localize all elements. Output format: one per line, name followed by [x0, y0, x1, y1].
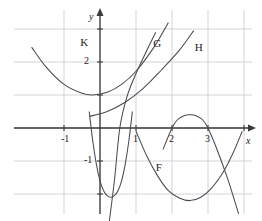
- curve-G: [109, 32, 156, 221]
- x-tick-label-2: 2: [169, 134, 174, 144]
- x-axis-arrow: [248, 125, 256, 132]
- curves: [32, 22, 243, 221]
- coordinate-plane: [0, 0, 262, 221]
- curve-K: [89, 112, 132, 198]
- curve-label-k: K: [80, 37, 88, 48]
- x-axis-label: x: [246, 136, 250, 146]
- curve-label-g: G: [153, 38, 161, 49]
- graph-figure: -11232-1xyKGHF: [0, 0, 262, 221]
- y-tick-label-1: -1: [84, 155, 92, 165]
- curve-H: [89, 31, 193, 117]
- grid-lines: [14, 10, 252, 214]
- curve-label-f: F: [156, 162, 162, 173]
- x-tick-label-1: 1: [133, 134, 138, 144]
- y-tick-label-0: 2: [84, 56, 89, 66]
- curve-label-h: H: [195, 42, 203, 53]
- y-axis-label: y: [89, 12, 93, 22]
- axes: [14, 8, 256, 214]
- x-tick-label-0: -1: [61, 134, 69, 144]
- x-tick-label-3: 3: [205, 134, 210, 144]
- y-axis-arrow: [97, 8, 104, 16]
- curve-F: [136, 131, 242, 200]
